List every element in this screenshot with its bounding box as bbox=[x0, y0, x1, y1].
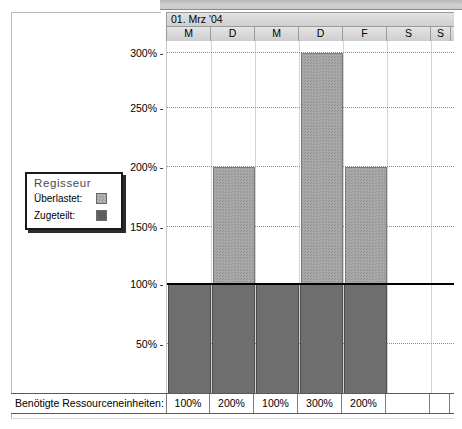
timescale-minor-row: M D M D F S S bbox=[167, 27, 454, 41]
y-tick-label: 300% bbox=[130, 47, 157, 59]
day-header-cell[interactable]: M bbox=[255, 27, 299, 41]
column-separator bbox=[431, 41, 432, 393]
required-resource-units-cells: 100% 200% 100% 300% 200% bbox=[166, 394, 450, 413]
y-tick-dash: - bbox=[157, 162, 166, 172]
day-header-cell[interactable]: S bbox=[431, 27, 451, 41]
bar-overallocated-day-4[interactable] bbox=[301, 53, 343, 285]
y-axis-tick: 200%- bbox=[0, 162, 166, 172]
y-tick-label: 250% bbox=[130, 102, 157, 114]
y-tick-label: 100% bbox=[130, 278, 157, 290]
required-resource-units-label: Benötigte Ressourceneinheiten: bbox=[15, 394, 165, 413]
legend-title: Regisseur bbox=[34, 177, 115, 189]
column-separator bbox=[387, 41, 388, 393]
resource-unit-cell[interactable]: 300% bbox=[298, 394, 342, 413]
legend-item-label: Überlastet: bbox=[34, 193, 82, 204]
legend-item-allocated: Zugeteilt: bbox=[34, 207, 115, 224]
resource-unit-cell[interactable]: 200% bbox=[342, 394, 386, 413]
bar-allocated-day-1[interactable] bbox=[168, 284, 211, 393]
day-header-cell[interactable]: D bbox=[211, 27, 255, 41]
y-axis-tick: 100%- bbox=[0, 279, 166, 289]
window-title-strip bbox=[160, 0, 462, 10]
y-axis-tick: 300%- bbox=[0, 48, 166, 58]
y-tick-dash: - bbox=[157, 339, 166, 349]
y-tick-label: 150% bbox=[130, 221, 157, 233]
timescale-major-label: 01. Mrz '04 bbox=[167, 13, 454, 27]
resource-graph-plot[interactable] bbox=[166, 41, 454, 393]
day-header-cell[interactable]: F bbox=[343, 27, 387, 41]
required-resource-units-row: Benötigte Ressourceneinheiten: 100% 200%… bbox=[11, 393, 454, 414]
legend-box[interactable]: Regisseur Überlastet: Zugeteilt: bbox=[25, 172, 123, 230]
dark-dither-swatch-icon bbox=[96, 210, 107, 221]
y-tick-label: 50% bbox=[136, 338, 157, 350]
y-axis-tick: 250%- bbox=[0, 103, 166, 113]
bar-overallocated-day-5[interactable] bbox=[345, 167, 387, 285]
resource-unit-cell[interactable] bbox=[386, 394, 430, 413]
y-tick-dash: - bbox=[157, 48, 166, 58]
legend-item-label: Zugeteilt: bbox=[34, 210, 75, 221]
light-dither-swatch-icon bbox=[96, 193, 107, 204]
y-tick-label: 200% bbox=[130, 161, 157, 173]
y-tick-dash: - bbox=[157, 279, 166, 289]
legend-item-overallocated: Überlastet: bbox=[34, 190, 115, 207]
day-header-cell[interactable]: M bbox=[167, 27, 211, 41]
resource-unit-cell[interactable] bbox=[430, 394, 450, 413]
y-tick-dash: - bbox=[157, 222, 166, 232]
resource-unit-cell[interactable]: 100% bbox=[254, 394, 298, 413]
baseline-100-percent bbox=[167, 283, 454, 285]
resource-unit-cell[interactable]: 200% bbox=[210, 394, 254, 413]
timescale-header: 01. Mrz '04 M D M D F S S bbox=[166, 12, 454, 41]
bar-allocated-day-4[interactable] bbox=[300, 284, 343, 393]
bar-allocated-day-2[interactable] bbox=[212, 284, 255, 393]
resource-unit-cell[interactable]: 100% bbox=[166, 394, 210, 413]
day-header-cell[interactable]: D bbox=[299, 27, 343, 41]
bottom-divider bbox=[11, 418, 454, 419]
bar-allocated-day-3[interactable] bbox=[256, 284, 299, 393]
y-tick-dash: - bbox=[157, 103, 166, 113]
y-axis-tick: 50%- bbox=[0, 339, 166, 349]
day-header-cell[interactable]: S bbox=[387, 27, 431, 41]
bar-allocated-day-5[interactable] bbox=[344, 284, 387, 393]
bar-overallocated-day-2[interactable] bbox=[213, 167, 255, 285]
